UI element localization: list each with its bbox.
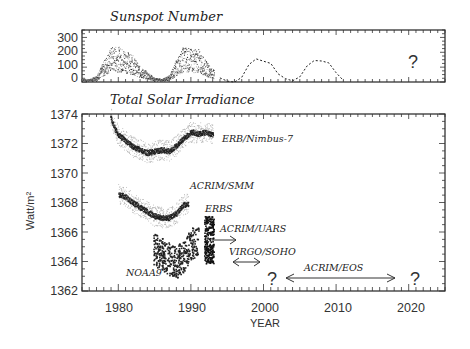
label-acrim-smm: ACRIM/SMM: [189, 180, 254, 191]
xtick-2000: 2000: [251, 301, 279, 315]
sunspot-title: Sunspot Number: [110, 9, 223, 24]
ytick-1374: 1374: [50, 108, 78, 122]
x-axis-label: YEAR: [250, 317, 280, 329]
sunspot-y-labels: 300 200 100 0: [57, 31, 78, 85]
xtick-2020: 2020: [397, 301, 425, 315]
irradiance-series: [110, 109, 215, 279]
x-tick-labels: 1980 1990 2000 2010 2020: [105, 301, 425, 315]
label-acrim-eos: ACRIM/EOS: [303, 262, 364, 273]
question-mark-2020: ?: [410, 269, 420, 289]
label-erbs: ERBS: [204, 203, 233, 214]
ytick-1364: 1364: [50, 255, 78, 269]
arrow-acrim-eos: [286, 274, 395, 282]
y-axis-label: Watt/m²: [24, 192, 36, 230]
ytick-1362: 1362: [50, 284, 78, 298]
arrow-acrim-uars: [212, 236, 236, 244]
arrow-virgo-soho: [233, 258, 260, 266]
ytick-1370: 1370: [50, 167, 78, 181]
solar-chart-figure: Sunspot Number 300 200 100 0 ? Total Sol…: [0, 0, 470, 349]
label-noaa9: NOAA9: [125, 267, 162, 278]
sunspot-series: [82, 47, 343, 82]
xtick-2010: 2010: [324, 301, 352, 315]
label-virgo-soho: VIRGO/SOHO: [229, 246, 296, 257]
ytick-1368: 1368: [50, 196, 78, 210]
irradiance-title: Total Solar Irradiance: [110, 92, 255, 107]
question-mark-2000: ?: [267, 269, 277, 289]
sunspot-axis-ticks: [82, 30, 445, 82]
ytick-1372: 1372: [50, 137, 78, 151]
xtick-1990: 1990: [178, 301, 206, 315]
label-erb-nimbus7: ERB/Nimbus-7: [221, 133, 294, 144]
xtick-1980: 1980: [105, 301, 133, 315]
sunspot-plot-frame: [82, 30, 445, 82]
ytick-300: 300: [57, 31, 78, 45]
mission-arrows: [212, 236, 395, 282]
irradiance-y-labels: 1374 1372 1370 1368 1366 1364 1362: [50, 108, 78, 298]
ytick-100: 100: [57, 58, 78, 72]
label-acrim-uars: ACRIM/UARS: [219, 223, 287, 234]
sunspot-question-mark: ?: [408, 52, 418, 72]
ytick-200: 200: [57, 44, 78, 58]
ytick-0: 0: [71, 71, 78, 85]
ytick-1366: 1366: [50, 226, 78, 240]
